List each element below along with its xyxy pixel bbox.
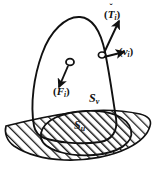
surface-u-label: Su (74, 119, 85, 133)
surface-v-symbol: S (89, 91, 96, 105)
traction-label: (ˇTi) (104, 9, 120, 22)
surface-v-subscript: v (96, 97, 100, 106)
force-symbol: F (57, 85, 64, 97)
velocity-label: (vi) (119, 46, 133, 59)
traction-arrow (104, 21, 119, 53)
surface-u-subscript: u (81, 124, 85, 133)
velocity-close-paren: ) (130, 45, 134, 57)
interior-point-group (59, 59, 74, 87)
contact-region-group (41, 111, 131, 155)
traction-symbol-wrap: ˇT (108, 9, 115, 20)
mechanics-diagram-figure: (ˇTi) (vi) (Fi) Sv Su (0, 0, 157, 173)
traction-close-paren: ) (116, 8, 120, 20)
vector-mark-icon: ˇ (109, 4, 112, 13)
force-close-paren: ) (66, 85, 70, 97)
body-contact-region (41, 111, 131, 155)
surface-u-symbol: S (74, 118, 81, 132)
surface-v-label: Sv (89, 92, 99, 106)
interior-point-marker (66, 59, 74, 66)
body-force-label: (Fi) (53, 86, 70, 99)
diagram-canvas (0, 0, 157, 173)
body-force-arrow (59, 66, 68, 87)
